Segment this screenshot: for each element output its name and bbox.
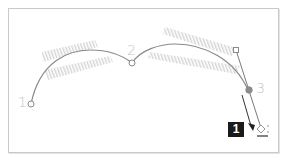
pen-cursor-icon bbox=[257, 125, 269, 136]
anchor-point-2[interactable] bbox=[129, 60, 135, 66]
hatch-band-lower-left bbox=[45, 56, 113, 80]
hatch-band-upper-right bbox=[163, 27, 236, 56]
anchor-label-3: 3 bbox=[256, 80, 265, 96]
bezier-diagram bbox=[0, 0, 285, 166]
hatch-band-upper-left bbox=[42, 40, 98, 62]
drag-arrow-icon bbox=[248, 123, 255, 131]
anchor-point-3[interactable] bbox=[246, 87, 252, 93]
anchor-label-1: 1 bbox=[18, 94, 27, 110]
anchor-point-1[interactable] bbox=[28, 101, 34, 107]
step-badge: 1 bbox=[228, 122, 244, 137]
direction-handle-icon[interactable] bbox=[234, 48, 239, 53]
hatch-band-lower-right bbox=[148, 52, 240, 74]
anchor-label-2: 2 bbox=[127, 42, 136, 58]
